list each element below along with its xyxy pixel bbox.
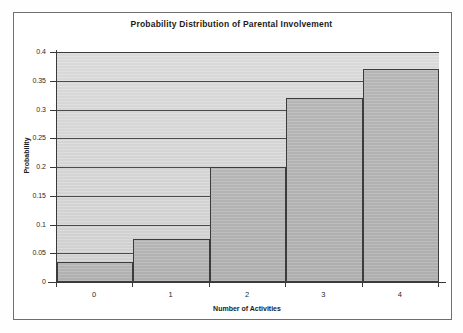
bar-3 xyxy=(286,98,362,282)
y-tick-mark xyxy=(50,253,56,254)
x-tick-label: 4 xyxy=(380,290,420,299)
page-canvas: Probability Distribution of Parental Inv… xyxy=(0,0,463,333)
bar-texture xyxy=(364,70,438,281)
y-tick-label: 0.15 xyxy=(12,192,46,199)
x-tick-mark xyxy=(438,282,439,287)
x-tick-label: 3 xyxy=(303,290,343,299)
x-tick-label: 1 xyxy=(151,290,191,299)
bar-texture xyxy=(58,263,132,281)
x-tick-mark xyxy=(285,282,286,287)
y-tick-mark xyxy=(50,225,56,226)
x-tick-label: 2 xyxy=(227,290,267,299)
y-tick-label: 0.1 xyxy=(12,221,46,228)
bar-texture xyxy=(134,240,208,281)
bar-0 xyxy=(57,262,133,282)
y-tick-mark xyxy=(50,196,56,197)
y-tick-mark xyxy=(50,52,56,53)
gridline xyxy=(57,52,439,53)
x-axis-label: Number of Activities xyxy=(56,305,438,312)
x-tick-mark xyxy=(362,282,363,287)
bar-1 xyxy=(133,239,209,282)
x-axis-line xyxy=(48,282,446,283)
x-tick-mark xyxy=(209,282,210,287)
bar-2 xyxy=(210,167,286,282)
y-tick-label: 0.05 xyxy=(12,249,46,256)
y-axis-line xyxy=(56,50,57,283)
plot-area xyxy=(56,52,439,282)
y-tick-mark xyxy=(50,81,56,82)
y-tick-mark xyxy=(50,138,56,139)
x-tick-label: 0 xyxy=(74,290,114,299)
x-tick-mark xyxy=(56,282,57,287)
bar-4 xyxy=(363,69,439,282)
y-tick-label: 0 xyxy=(12,278,46,285)
y-axis-label: Probability xyxy=(23,126,30,186)
y-tick-mark xyxy=(50,167,56,168)
y-tick-label: 0.3 xyxy=(12,106,46,113)
y-tick-label: 0.4 xyxy=(12,48,46,55)
x-tick-mark xyxy=(132,282,133,287)
chart-title: Probability Distribution of Parental Inv… xyxy=(0,19,463,29)
bar-texture xyxy=(287,99,361,281)
bar-texture xyxy=(211,168,285,281)
y-tick-label: 0.35 xyxy=(12,77,46,84)
y-tick-mark xyxy=(50,110,56,111)
